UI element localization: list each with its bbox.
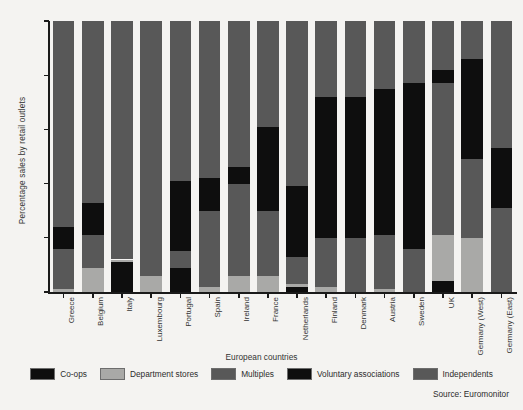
x-category-label: Austria (388, 297, 397, 322)
x-category-label: Finland (330, 297, 339, 323)
x-category-label: UK (447, 297, 456, 308)
bar-segment (111, 262, 133, 292)
x-axis-label: European countries (0, 352, 523, 362)
bar-germany-west (461, 21, 483, 292)
legend-swatch (100, 368, 125, 380)
bar-segment (53, 289, 75, 292)
y-axis-label: Percentage sales by retail outlets (18, 61, 27, 261)
bar-segment (140, 276, 162, 292)
legend-label: Voluntary associations (317, 369, 400, 379)
x-category-label: Luxembourg (155, 297, 164, 341)
legend-label: Multiples (241, 369, 274, 379)
bar-segment (228, 167, 250, 183)
x-tick (121, 293, 123, 298)
x-category-label: Germany (West) (476, 297, 485, 356)
bar-segment (199, 21, 221, 178)
bar-segment (199, 287, 221, 292)
bar-segment (374, 289, 396, 292)
x-tick (413, 293, 415, 298)
x-tick (238, 293, 240, 298)
bar-segment (491, 208, 513, 292)
legend-label: Department stores (130, 369, 198, 379)
bar-segment (82, 21, 104, 203)
bar-segment (170, 21, 192, 181)
legend-label: Co-ops (60, 369, 87, 379)
x-tick (384, 293, 386, 298)
legend-item[interactable]: Multiples (211, 368, 274, 380)
bar-ireland (228, 21, 250, 292)
chart-legend: Co-opsDepartment storesMultiplesVoluntar… (0, 368, 523, 380)
bar-segment (286, 287, 308, 292)
bar-segment (199, 178, 221, 211)
bar-spain (199, 21, 221, 292)
bar-segment (170, 268, 192, 292)
source-note: Source: Euromonitor (433, 389, 509, 399)
bar-segment (257, 211, 279, 276)
bar-segment (403, 83, 425, 248)
bar-luxembourg (140, 21, 162, 292)
legend-swatch (413, 368, 438, 380)
bar-segment (286, 186, 308, 256)
bar-sweden (403, 21, 425, 292)
x-tick (92, 293, 94, 298)
bar-uk (432, 21, 454, 292)
bar-segment (491, 148, 513, 208)
bar-segment (82, 268, 104, 292)
bar-segment (315, 238, 337, 287)
x-category-label: Portugal (184, 297, 193, 327)
bar-segment (53, 21, 75, 227)
x-tick (355, 293, 357, 298)
plot-area: 020406080100 GreeceBelgiumItalyLuxembour… (49, 21, 516, 292)
stacked-bar-chart: Percentage sales by retail outlets 02040… (0, 0, 523, 410)
bar-segment (491, 21, 513, 148)
bar-segment (228, 184, 250, 276)
bar-greece (53, 21, 75, 292)
bar-segment (315, 21, 337, 97)
x-tick (501, 293, 503, 298)
bar-portugal (170, 21, 192, 292)
bar-segment (345, 238, 367, 292)
bar-segment (315, 287, 337, 292)
x-tick (442, 293, 444, 298)
legend-item[interactable]: Voluntary associations (287, 368, 400, 380)
legend-swatch (287, 368, 312, 380)
x-category-label: Greece (67, 297, 76, 323)
legend-swatch (211, 368, 236, 380)
x-category-label: Netherlands (301, 297, 310, 340)
x-category-label: Belgium (96, 297, 105, 326)
x-tick (63, 293, 65, 298)
bar-belgium (82, 21, 104, 292)
x-category-label: Sweden (417, 297, 426, 326)
x-tick (180, 293, 182, 298)
legend-item[interactable]: Department stores (100, 368, 198, 380)
x-tick (150, 293, 152, 298)
bar-segment (228, 21, 250, 167)
bar-segment (286, 21, 308, 186)
legend-label: Independents (443, 369, 493, 379)
legend-item[interactable]: Co-ops (30, 368, 87, 380)
bar-segment (53, 249, 75, 290)
bar-segment (374, 89, 396, 235)
bar-segment (111, 203, 133, 260)
bar-segment (432, 83, 454, 235)
bar-segment (257, 21, 279, 127)
bar-segment (257, 276, 279, 292)
bar-segment (432, 70, 454, 84)
bar-segment (432, 281, 454, 292)
bar-segment (82, 235, 104, 268)
x-category-label: Spain (213, 297, 222, 317)
x-category-label: Denmark (359, 297, 368, 329)
bar-segment (140, 197, 162, 276)
bar-segment (432, 21, 454, 70)
x-axis-line (48, 292, 517, 294)
legend-item[interactable]: Independents (413, 368, 493, 380)
bar-finland (315, 21, 337, 292)
x-category-label: Italy (125, 297, 134, 312)
bar-segment (170, 251, 192, 267)
legend-swatch (30, 368, 55, 380)
x-tick (471, 293, 473, 298)
bar-segment (461, 159, 483, 238)
bar-segment (315, 97, 337, 238)
bar-segment (170, 181, 192, 251)
bar-segment (403, 21, 425, 83)
